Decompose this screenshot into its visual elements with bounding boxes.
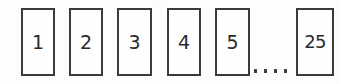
ellipsis-dots xyxy=(254,69,287,73)
sequence-box-label: 5 xyxy=(227,32,239,51)
sequence-box-label: 4 xyxy=(178,32,190,51)
ellipsis-dot xyxy=(284,69,287,73)
sequence-box-label: 2 xyxy=(80,32,92,51)
numbered-box-sequence-figure: 1 2 3 4 5 25 xyxy=(0,0,341,84)
sequence-box: 2 xyxy=(69,8,103,76)
sequence-box: 3 xyxy=(117,8,152,76)
ellipsis-dot xyxy=(264,69,267,73)
ellipsis-dot xyxy=(254,69,257,73)
sequence-box: 4 xyxy=(167,8,201,76)
ellipsis-dot xyxy=(274,69,277,73)
sequence-box-label: 3 xyxy=(129,32,141,51)
sequence-box: 25 xyxy=(296,8,334,76)
sequence-box: 1 xyxy=(21,8,55,76)
sequence-box: 5 xyxy=(215,8,250,76)
sequence-box-label: 25 xyxy=(304,33,325,51)
sequence-box-label: 1 xyxy=(32,32,44,51)
